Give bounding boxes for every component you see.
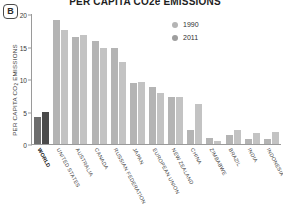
bar <box>72 37 79 144</box>
x-axis-labels: WORLDUNITED STATESAUSTRALIACANADARUSSIAN… <box>32 146 281 210</box>
legend-label: 2011 <box>183 34 198 41</box>
legend-item: 2011 <box>172 34 199 41</box>
bar <box>264 139 271 144</box>
bar-group <box>243 14 262 144</box>
bar <box>214 141 221 144</box>
bar-group <box>147 14 166 144</box>
bar-group <box>204 14 223 144</box>
bar <box>226 135 233 144</box>
bar <box>168 97 175 144</box>
legend-label: 1990 <box>183 21 199 28</box>
panel-label-b: B <box>3 4 18 19</box>
bar-group <box>70 14 89 144</box>
x-tick-label: INDONESIA <box>266 147 283 177</box>
bar <box>119 62 126 144</box>
x-label-cell: ZIMBABWE <box>204 146 223 210</box>
bar <box>100 48 107 144</box>
x-label-cell: CHINA <box>185 146 204 210</box>
bar-group <box>224 14 243 144</box>
bar <box>195 104 202 144</box>
x-label-cell: JAPAN <box>128 146 147 210</box>
x-label-cell: NEW ZEALAND <box>166 146 185 210</box>
x-label-cell: CANADA <box>89 146 108 210</box>
legend-item: 1990 <box>172 21 199 28</box>
bar <box>176 97 183 144</box>
x-label-cell: BRAZIL <box>224 146 243 210</box>
bar <box>206 138 213 144</box>
x-label-cell: RUSSIAN FEDERATION <box>109 146 128 210</box>
bar <box>234 130 241 144</box>
bar-group <box>89 14 108 144</box>
x-label-cell: INDIA <box>243 146 262 210</box>
chart-title: PER CAPITA CO2e EMISSIONS <box>40 0 250 7</box>
x-label-cell: WORLD <box>32 146 51 210</box>
bar <box>157 93 164 144</box>
chart-figure: B PER CAPITA CO2e EMISSIONS PER CAPITA C… <box>0 0 283 212</box>
bar-group <box>51 14 70 144</box>
bar <box>138 82 145 144</box>
x-label-cell: EUROPEAN UNION <box>147 146 166 210</box>
bar <box>111 48 118 144</box>
bar-group <box>109 14 128 144</box>
x-label-cell: UNITED STATES <box>51 146 70 210</box>
x-axis-line <box>31 144 281 145</box>
x-label-cell: INDONESIA <box>262 146 281 210</box>
bar <box>130 83 137 144</box>
y-axis-label-subscript: 2 <box>14 83 19 86</box>
bar <box>187 130 194 144</box>
y-axis-label-main: PER CAPITA CO <box>11 86 18 136</box>
x-tick-label: INDIA <box>247 147 259 163</box>
bar-group <box>262 14 281 144</box>
x-tick-label: CANADA <box>94 147 110 170</box>
x-tick-label: BRAZIL <box>228 147 243 167</box>
bar <box>53 20 60 144</box>
bar <box>80 35 87 144</box>
x-tick-label: CHINA <box>190 147 204 165</box>
bar <box>34 117 41 144</box>
bar <box>272 132 279 144</box>
bar <box>42 112 49 144</box>
bar-group <box>128 14 147 144</box>
bar <box>245 139 252 144</box>
x-tick-label: WORLD <box>36 147 51 168</box>
x-tick-label: JAPAN <box>132 147 146 165</box>
legend-swatch-icon <box>172 35 178 41</box>
legend: 19902011 <box>172 21 199 47</box>
legend-swatch-icon <box>172 22 178 28</box>
y-axis-label: PER CAPITA CO2 EMISSIONS <box>11 42 19 138</box>
plot-area: 05101520 <box>31 14 281 145</box>
y-axis-label-tail: EMISSIONS <box>11 44 18 83</box>
bar <box>253 133 260 144</box>
bar <box>92 41 99 144</box>
x-label-cell: AUSTRALIA <box>70 146 89 210</box>
bar-group <box>32 14 51 144</box>
bar <box>61 30 68 144</box>
bar-groups <box>32 14 281 144</box>
bar <box>149 87 156 144</box>
